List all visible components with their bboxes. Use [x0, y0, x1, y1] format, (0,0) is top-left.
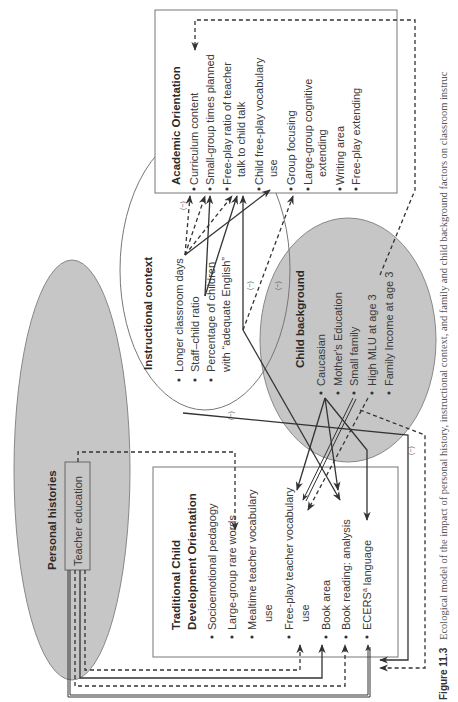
svg-text:Group focusing: Group focusing: [285, 110, 297, 185]
svg-text:(−): (−): [407, 446, 415, 455]
svg-text:Free-play ratio of teacher: Free-play ratio of teacher: [221, 62, 233, 185]
svg-text:Small-group times planned: Small-group times planned: [204, 54, 216, 185]
svg-text:Percentage of children: Percentage of children: [205, 262, 217, 372]
instructional-context-title: Instructional context: [142, 257, 154, 370]
svg-text:ECERSa language: ECERSa language: [361, 540, 373, 630]
svg-text:use: use: [262, 604, 274, 622]
svg-text:Curriculum content: Curriculum content: [188, 93, 200, 185]
svg-text:Small family: Small family: [348, 326, 360, 386]
svg-text:with “adequate English”: with “adequate English”: [220, 257, 232, 373]
svg-text:Large-group cognitive: Large-group cognitive: [302, 79, 314, 185]
svg-text:Longer classroom days: Longer classroom days: [173, 258, 185, 372]
caption-text: Ecological model of the impact of person…: [438, 71, 449, 640]
child-background-title: Child background: [294, 270, 306, 368]
svg-text:Mealtime teacher vocabulary: Mealtime teacher vocabulary: [246, 489, 258, 630]
svg-text:Caucasian: Caucasian: [315, 334, 327, 386]
svg-text:extending: extending: [316, 129, 328, 177]
svg-text:Development Orientation: Development Orientation: [186, 493, 198, 630]
svg-text:High MLU at age 3: High MLU at age 3: [366, 294, 378, 386]
svg-text:(−): (−): [179, 201, 187, 210]
svg-text:Free-play teacher vocabulary: Free-play teacher vocabulary: [283, 487, 295, 630]
figure-label: Figure 11.3: [438, 647, 449, 700]
svg-text:use: use: [267, 159, 279, 177]
svg-text:Free-play extending: Free-play extending: [350, 88, 362, 185]
svg-text:Child free-play vocabulary: Child free-play vocabulary: [253, 57, 265, 185]
teacher-education-label: Teacher education: [72, 476, 84, 566]
instructional-context-text: Instructional context Longer classroom d…: [142, 257, 232, 382]
academic-orientation-title: Academic Orientation: [170, 66, 182, 185]
svg-text:Staff–child ratio: Staff–child ratio: [189, 296, 201, 372]
ecological-model-diagram: (−) (−) (−) (−) (−) Academic Orientation…: [0, 0, 458, 702]
svg-text:(−): (−): [227, 411, 235, 420]
svg-text:Socioemotional pedagogy: Socioemotional pedagogy: [206, 503, 218, 630]
svg-text:Mother's Education: Mother's Education: [332, 292, 344, 386]
svg-text:(−): (−): [274, 281, 282, 290]
figure-caption: Figure 11.3 Ecological model of the impa…: [438, 71, 449, 700]
svg-text:use: use: [299, 604, 311, 622]
personal-histories-title: Personal histories: [46, 470, 58, 570]
svg-text:Writing area: Writing area: [334, 125, 346, 185]
svg-text:(−): (−): [246, 281, 254, 290]
svg-text:Traditional Child: Traditional Child: [170, 540, 182, 630]
svg-text:Book area: Book area: [320, 579, 332, 630]
svg-text:talk to child talk: talk to child talk: [235, 101, 247, 177]
svg-text:Large-group rare words: Large-group rare words: [226, 515, 238, 630]
svg-text:Book reading: analysis: Book reading: analysis: [340, 519, 352, 630]
svg-text:Family Income at age 3: Family Income at age 3: [383, 272, 395, 386]
